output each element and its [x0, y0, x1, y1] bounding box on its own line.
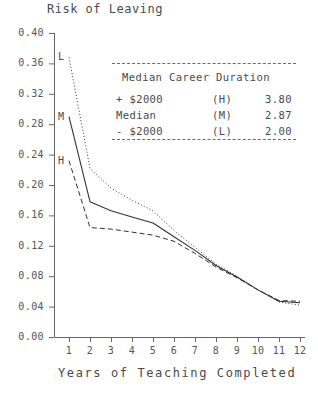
legend-heading: Median Career Duration: [122, 71, 270, 83]
legend-row-code: (L): [212, 125, 232, 137]
legend-row-value: 2.00: [258, 125, 292, 137]
y-axis-tick-label: 0.16: [10, 209, 44, 220]
x-axis-title: Years of Teaching Completed: [58, 366, 296, 380]
x-axis-tick-label: 4: [122, 345, 142, 356]
legend-row-value: 3.80: [258, 93, 292, 105]
legend-row-code: (M): [212, 109, 232, 121]
y-axis-tick-label: 0.20: [10, 179, 44, 190]
x-axis-tick-label: 12: [290, 345, 310, 356]
y-axis-tick-label: 0.32: [10, 88, 44, 99]
risk-of-leaving-chart: Risk of Leaving 0.400.360.320.280.240.20…: [0, 0, 318, 393]
legend-row-name: Median: [116, 109, 156, 121]
x-axis-tick-label: 3: [101, 345, 121, 356]
y-axis-tick-label: 0.04: [10, 301, 44, 312]
y-axis-tick-label: 0.08: [10, 270, 44, 281]
x-axis-tick-label: 11: [269, 345, 289, 356]
y-axis-tick-label: 0.28: [10, 118, 44, 129]
y-axis-ticks: [49, 34, 55, 338]
x-axis-ticks: [70, 338, 301, 343]
y-axis-tick-label: 0.40: [10, 27, 44, 38]
legend-row-code: (H): [212, 93, 232, 105]
legend-top-divider: [112, 63, 296, 64]
y-axis-tick-label: 0.12: [10, 240, 44, 251]
y-axis-tick-label: 0.24: [10, 149, 44, 160]
x-axis-tick-label: 8: [206, 345, 226, 356]
series-marker-H: H: [58, 155, 64, 166]
legend-row-value: 2.87: [258, 109, 292, 121]
x-axis-tick-label: 10: [248, 345, 268, 356]
x-axis-tick-label: 1: [59, 345, 79, 356]
legend-box: Median Career Duration + $2000 (H) 3.80 …: [112, 53, 296, 145]
x-axis-tick-label: 5: [143, 345, 163, 356]
y-axis-tick-label: 0.36: [10, 57, 44, 68]
x-axis-tick-label: 7: [185, 345, 205, 356]
legend-bottom-divider: [112, 139, 296, 140]
legend-row-name: - $2000: [116, 125, 163, 137]
x-axis-tick-label: 2: [80, 345, 100, 356]
series-marker-M: M: [58, 111, 64, 122]
series-marker-L: L: [58, 51, 64, 62]
x-axis-tick-label: 9: [227, 345, 247, 356]
x-axis-tick-label: 6: [164, 345, 184, 356]
legend-row-name: + $2000: [116, 93, 163, 105]
y-axis-tick-label: 0.00: [10, 331, 44, 342]
